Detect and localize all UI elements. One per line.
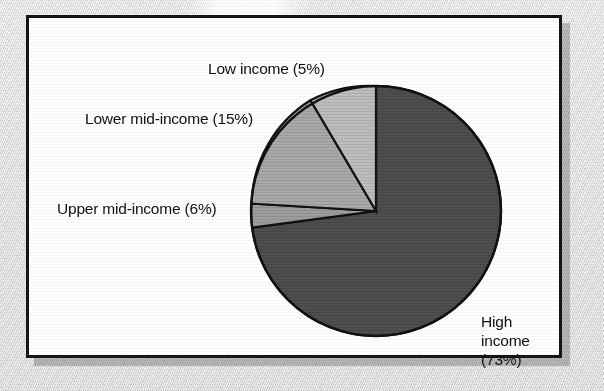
pie-label-low-income: Low income (5%) [208, 59, 325, 78]
figure-page: Low income (5%) Lower mid-income (15%) U… [0, 0, 604, 391]
pie-label-high-income: High income (73%) [481, 312, 559, 369]
figure-frame: Low income (5%) Lower mid-income (15%) U… [26, 15, 562, 358]
pie-label-upper-mid-income: Upper mid-income (6%) [57, 199, 216, 218]
pie-chart: Low income (5%) Lower mid-income (15%) U… [29, 18, 559, 355]
pie-label-lower-mid-income: Lower mid-income (15%) [85, 109, 253, 128]
